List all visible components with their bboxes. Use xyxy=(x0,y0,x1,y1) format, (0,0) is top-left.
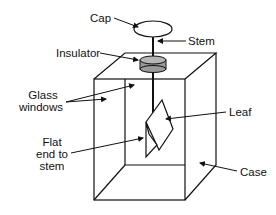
leaf-pointer xyxy=(166,112,226,119)
label-cap: Cap xyxy=(90,12,111,24)
label-stem: Stem xyxy=(188,35,215,47)
label-flat: Flat xyxy=(32,136,72,148)
case-pointer xyxy=(200,163,237,171)
label-end-to: end to xyxy=(32,148,72,160)
label-stem-2: stem xyxy=(32,160,72,172)
cap-pointer xyxy=(114,18,138,27)
label-leaf: Leaf xyxy=(229,106,251,118)
insulator xyxy=(140,56,166,73)
label-case: Case xyxy=(240,166,267,178)
flat-end-pointer xyxy=(71,138,143,153)
label-windows: windows xyxy=(14,101,68,113)
insulator-pointer xyxy=(100,53,138,60)
label-insulator: Insulator xyxy=(56,47,100,59)
cap xyxy=(134,21,172,37)
case-bottom-diagonal xyxy=(94,165,125,200)
label-glass: Glass xyxy=(18,89,68,101)
case-front-face xyxy=(94,79,185,200)
